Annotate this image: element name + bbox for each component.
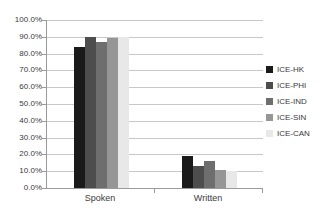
chart-legend: ICE-HKICE-PHIICE-INDICE-SINICE-CAN [266,61,326,141]
y-axis-tick-label: 30.0% [0,133,42,142]
legend-label: ICE-HK [277,65,304,74]
legend-label: ICE-PHI [277,81,306,90]
bar [215,170,226,188]
bar [107,38,118,188]
bar [226,171,237,188]
x-axis-tick-mark [262,189,263,193]
y-axis-tick-label: 80.0% [0,49,42,58]
y-axis-tick-label: 40.0% [0,116,42,125]
legend-swatch-icon [266,130,273,137]
legend-label: ICE-SIN [277,113,306,122]
x-axis-tick-label: Spoken [60,193,140,203]
y-axis-tick-label: 70.0% [0,65,42,74]
bar [74,47,85,188]
bar-group [182,20,237,188]
y-axis-labels: 100.0%90.0%80.0%70.0%60.0%50.0%40.0%30.0… [0,20,42,188]
legend-item: ICE-HK [266,61,326,77]
legend-item: ICE-CAN [266,125,326,141]
y-axis-tick-label: 100.0% [0,15,42,24]
legend-swatch-icon [266,114,273,121]
legend-label: ICE-CAN [277,129,310,138]
legend-swatch-icon [266,66,273,73]
legend-item: ICE-SIN [266,109,326,125]
bar [193,166,204,188]
bar [204,161,215,188]
bar [85,37,96,188]
legend-swatch-icon [266,82,273,89]
bar-chart: 100.0%90.0%80.0%70.0%60.0%50.0%40.0%30.0… [0,0,326,215]
x-axis-tick-mark [154,189,155,193]
legend-item: ICE-IND [266,93,326,109]
bar [118,37,129,188]
legend-swatch-icon [266,98,273,105]
bar-group [74,20,129,188]
y-axis-tick-label: 0.0% [0,183,42,192]
plot-area [46,20,263,189]
x-axis-tick-label: Written [168,193,248,203]
y-axis-tick-label: 20.0% [0,149,42,158]
bar [182,156,193,188]
y-axis-tick-label: 90.0% [0,32,42,41]
legend-item: ICE-PHI [266,77,326,93]
y-axis-tick-label: 10.0% [0,166,42,175]
legend-label: ICE-IND [277,97,307,106]
y-axis-tick-label: 60.0% [0,82,42,91]
bar [96,42,107,188]
y-axis-tick-label: 50.0% [0,99,42,108]
